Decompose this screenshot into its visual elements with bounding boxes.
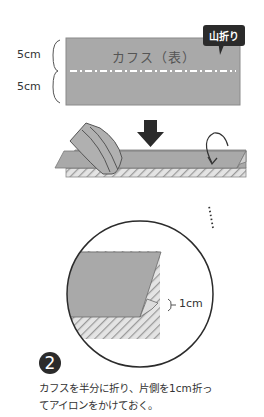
cuff-face-label: カフス（表） — [112, 47, 196, 66]
down-arrow-icon — [137, 120, 164, 147]
dimension-braces — [53, 40, 60, 103]
step-number-badge: 2 — [39, 352, 61, 374]
dimension-lower: 5cm — [17, 80, 41, 93]
zoom-detail-circle — [60, 221, 213, 367]
zoom-connector — [209, 206, 213, 228]
dimension-upper: 5cm — [17, 48, 41, 61]
fold-dimension-label: 1cm — [179, 297, 203, 310]
mountain-fold-callout: 山折り — [203, 25, 245, 46]
step-caption-line-2: てアイロンをかけておく。 — [39, 397, 259, 414]
fold-dimension-brace — [168, 299, 176, 311]
step-caption: カフスを半分に折り、片側を1cm折っ てアイロンをかけておく。 — [39, 380, 259, 414]
step-caption-line-1: カフスを半分に折り、片側を1cm折っ — [39, 380, 259, 397]
